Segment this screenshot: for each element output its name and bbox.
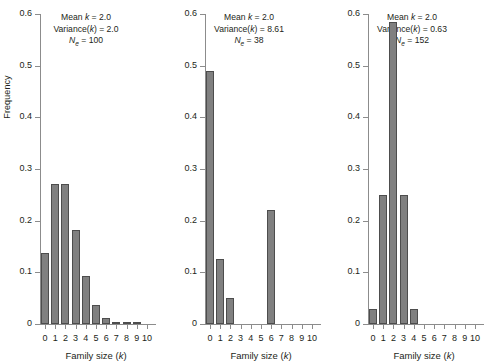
y-tick: 0.2 [35, 221, 40, 222]
y-tick-label: 0.6 [19, 8, 32, 18]
x-tick [404, 325, 405, 329]
bar [226, 298, 234, 324]
y-tick-label: 0.3 [184, 163, 197, 173]
x-tick [414, 325, 415, 329]
y-tick-label: 0.6 [347, 8, 360, 18]
x-tick [241, 325, 242, 329]
panel-1-plot-area: Family size (k) 00.10.20.30.40.50.601234… [205, 14, 317, 325]
y-tick: 0.3 [200, 169, 205, 170]
x-tick [373, 325, 374, 329]
bar [379, 195, 387, 324]
y-tick: 0.6 [363, 14, 368, 15]
y-tick-label: 0 [192, 318, 197, 328]
panel-2-x-axis [368, 324, 484, 325]
y-tick: 0.3 [363, 169, 368, 170]
bar [82, 276, 90, 324]
y-tick: 0.4 [363, 117, 368, 118]
panel-0-plot-area: Family size (k) 00.10.20.30.40.50.601234… [40, 14, 152, 325]
x-tick [210, 325, 211, 329]
y-tick: 0 [35, 324, 40, 325]
y-tick-label: 0.4 [184, 111, 197, 121]
y-tick: 0.1 [363, 272, 368, 273]
y-tick-label: 0.5 [347, 60, 360, 70]
bar [92, 305, 100, 324]
y-tick: 0.4 [35, 117, 40, 118]
y-tick-label: 0.3 [19, 163, 32, 173]
x-tick [116, 325, 117, 329]
y-tick: 0.5 [363, 66, 368, 67]
y-tick: 0.2 [200, 221, 205, 222]
panel-1: Mean k = 2.0 Variance(k) = 8.61 Ne = 38 … [163, 0, 326, 362]
x-tick [281, 325, 282, 329]
x-tick [65, 325, 66, 329]
x-tick [220, 325, 221, 329]
y-tick: 0.5 [35, 66, 40, 67]
x-tick [96, 325, 97, 329]
panel-1-x-axis-label: Family size (k) [205, 350, 317, 361]
x-tick [455, 325, 456, 329]
bar [216, 259, 224, 324]
y-tick-label: 0.4 [347, 111, 360, 121]
bar [410, 309, 418, 325]
y-tick-label: 0.2 [19, 215, 32, 225]
x-tick [137, 325, 138, 329]
y-tick-label: 0.4 [19, 111, 32, 121]
x-tick [444, 325, 445, 329]
x-tick [86, 325, 87, 329]
y-tick: 0.6 [200, 14, 205, 15]
y-tick-label: 0.1 [184, 266, 197, 276]
y-tick: 0 [200, 324, 205, 325]
panel-1-x-axis [205, 324, 321, 325]
x-tick [434, 325, 435, 329]
y-tick-label: 0.3 [347, 163, 360, 173]
figure-three-panel-family-size-histograms: Frequency Mean k = 2.0 Variance(k) = 2.0… [0, 0, 490, 362]
x-tick-label: 10 [467, 333, 483, 343]
x-tick-label: 10 [139, 333, 155, 343]
y-tick: 0.5 [200, 66, 205, 67]
panel-2-x-axis-label: Family size (k) [368, 350, 480, 361]
bar [61, 184, 69, 324]
bar [369, 309, 377, 325]
panel-0: Mean k = 2.0 Variance(k) = 2.0 Ne = 100 … [0, 0, 163, 362]
x-tick [465, 325, 466, 329]
x-tick [230, 325, 231, 329]
x-tick [292, 325, 293, 329]
x-tick [271, 325, 272, 329]
y-tick-label: 0.5 [19, 60, 32, 70]
bar [51, 184, 59, 324]
y-tick-label: 0 [355, 318, 360, 328]
x-tick [383, 325, 384, 329]
y-tick: 0.3 [35, 169, 40, 170]
y-tick: 0.6 [35, 14, 40, 15]
x-tick [251, 325, 252, 329]
x-tick [45, 325, 46, 329]
y-tick-label: 0.1 [19, 266, 32, 276]
x-tick [475, 325, 476, 329]
bar [389, 22, 397, 324]
y-tick-label: 0 [27, 318, 32, 328]
panel-2: Mean k = 2.0 Variance(k) = 0.63 Ne = 152… [326, 0, 489, 362]
x-tick [424, 325, 425, 329]
x-tick [393, 325, 394, 329]
x-tick [261, 325, 262, 329]
y-tick-label: 0.2 [347, 215, 360, 225]
bar [206, 71, 214, 324]
y-tick-label: 0.5 [184, 60, 197, 70]
x-tick [312, 325, 313, 329]
bar [41, 253, 49, 324]
bar [267, 210, 275, 324]
x-tick [55, 325, 56, 329]
y-tick: 0.1 [200, 272, 205, 273]
panel-0-x-axis [40, 324, 156, 325]
panel-2-plot-area: Family size (k) 00.10.20.30.40.50.601234… [368, 14, 480, 325]
y-tick-label: 0.6 [184, 8, 197, 18]
bar [72, 230, 80, 324]
y-tick: 0 [363, 324, 368, 325]
x-tick [76, 325, 77, 329]
y-tick: 0.1 [35, 272, 40, 273]
panel-2-y-axis [368, 14, 369, 325]
panel-0-x-axis-label: Family size (k) [40, 350, 152, 361]
y-tick-label: 0.2 [184, 215, 197, 225]
x-tick-label: 10 [304, 333, 320, 343]
bar [112, 322, 120, 324]
